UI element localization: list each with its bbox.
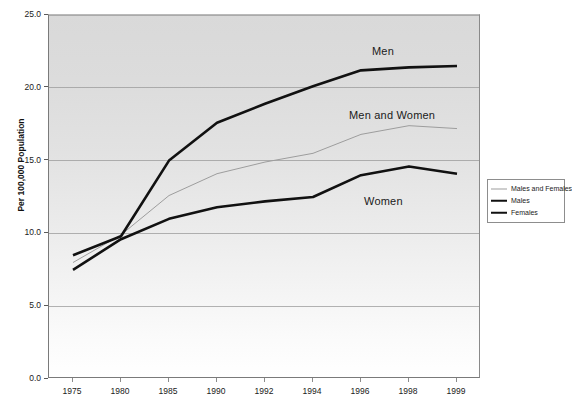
- series-line-females: [73, 166, 457, 269]
- x-tick-label: 1998: [385, 386, 431, 396]
- x-tick-mark: [72, 378, 73, 382]
- x-tick-mark: [408, 378, 409, 382]
- y-tick-mark: [44, 14, 48, 15]
- y-tick-mark: [44, 378, 48, 379]
- x-tick-label: 1992: [241, 386, 287, 396]
- x-tick-mark: [360, 378, 361, 382]
- x-tick-mark: [264, 378, 265, 382]
- y-tick-label: 0.0: [29, 373, 41, 383]
- series-annotation: Men and Women: [349, 109, 435, 121]
- x-tick-mark: [312, 378, 313, 382]
- x-tick-label: 1975: [49, 386, 95, 396]
- series-annotation: Men: [372, 45, 394, 57]
- legend-label: Females: [511, 208, 538, 217]
- legend-swatch-icon: [490, 208, 508, 218]
- legend-item[interactable]: Females: [490, 207, 561, 218]
- y-tick-label: 10.0: [24, 227, 41, 237]
- x-tick-label: 1996: [337, 386, 383, 396]
- x-tick-label: 1985: [145, 386, 191, 396]
- y-axis-title: Per 100,000 Population: [16, 100, 26, 230]
- legend: Males and FemalesMalesFemales: [487, 179, 565, 223]
- x-tick-mark: [120, 378, 121, 382]
- y-tick-mark: [44, 159, 48, 160]
- series-annotation: Women: [364, 195, 403, 207]
- legend-item[interactable]: Males: [490, 195, 561, 206]
- x-tick-mark: [456, 378, 457, 382]
- x-tick-mark: [216, 378, 217, 382]
- y-tick-label: 5.0: [29, 300, 41, 310]
- y-tick-mark: [44, 305, 48, 306]
- x-tick-label: 1999: [433, 386, 479, 396]
- legend-label: Males: [511, 196, 530, 205]
- y-tick-mark: [44, 232, 48, 233]
- plot-area: MenMen and WomenWomen: [48, 14, 480, 378]
- x-tick-mark: [168, 378, 169, 382]
- legend-label: Males and Females: [511, 184, 572, 193]
- legend-item[interactable]: Males and Females: [490, 183, 561, 194]
- y-tick-label: 15.0: [24, 155, 41, 165]
- x-tick-label: 1990: [193, 386, 239, 396]
- y-tick-label: 20.0: [24, 82, 41, 92]
- x-tick-label: 1994: [289, 386, 335, 396]
- legend-swatch-icon: [490, 196, 508, 206]
- series-layer: [49, 15, 481, 379]
- y-tick-label: 25.0: [24, 9, 41, 19]
- y-tick-mark: [44, 86, 48, 87]
- legend-swatch-icon: [490, 184, 508, 194]
- x-tick-label: 1980: [97, 386, 143, 396]
